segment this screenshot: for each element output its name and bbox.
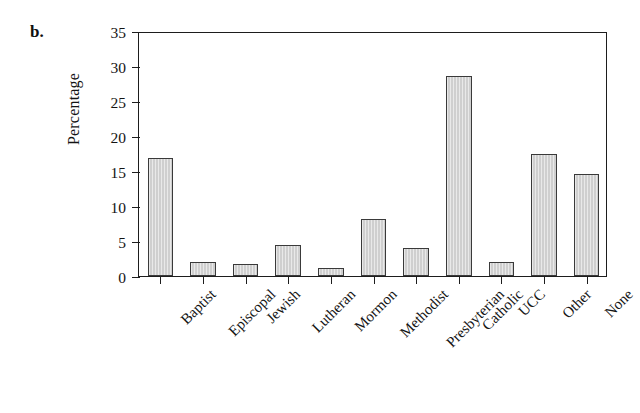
x-tick-label: Lutheran <box>309 286 359 336</box>
panel-letter: b. <box>30 22 44 42</box>
bar <box>446 76 472 276</box>
y-tick-label: 25 <box>111 93 127 112</box>
y-tick-label: 15 <box>111 163 127 182</box>
bar <box>190 262 216 276</box>
x-tick <box>459 276 460 284</box>
y-axis-title: Percentage <box>65 29 83 189</box>
bar <box>233 264 259 276</box>
x-tick <box>246 276 247 284</box>
y-tick: 15 <box>132 172 140 173</box>
x-tick <box>587 276 588 284</box>
y-tick: 35 <box>132 32 140 33</box>
x-tick-label: Mormon <box>351 286 400 335</box>
y-tick: 5 <box>132 242 140 243</box>
x-tick-label: None <box>601 286 636 321</box>
bar-chart-figure: b. Percentage 05101520253035 BaptistEpis… <box>0 0 640 413</box>
y-tick: 25 <box>132 102 140 103</box>
y-tick-label: 30 <box>111 58 127 77</box>
y-tick: 10 <box>132 207 140 208</box>
y-tick-label: 35 <box>111 23 127 42</box>
x-tick <box>331 276 332 284</box>
bar <box>489 262 515 276</box>
x-tick <box>416 276 417 284</box>
x-tick <box>288 276 289 284</box>
x-tick-label: Baptist <box>178 286 220 328</box>
x-tick-label: Methodist <box>396 286 451 341</box>
y-tick-label: 10 <box>111 198 127 217</box>
y-tick: 20 <box>132 137 140 138</box>
bar <box>531 154 557 277</box>
bar <box>275 245 301 276</box>
x-tick-label: Other <box>559 286 595 322</box>
x-tick <box>374 276 375 284</box>
y-tick-label: 0 <box>118 268 126 287</box>
y-tick: 30 <box>132 67 140 68</box>
bar <box>361 219 387 276</box>
y-tick-label: 20 <box>111 128 127 147</box>
bar <box>403 248 429 276</box>
x-tick <box>544 276 545 284</box>
x-tick <box>160 276 161 284</box>
y-tick-label: 5 <box>118 233 126 252</box>
plot-area: 05101520253035 <box>138 32 607 277</box>
bar <box>148 158 174 276</box>
bar <box>318 268 344 276</box>
y-tick: 0 <box>132 277 140 278</box>
bar <box>574 174 600 276</box>
x-tick <box>203 276 204 284</box>
x-tick <box>501 276 502 284</box>
